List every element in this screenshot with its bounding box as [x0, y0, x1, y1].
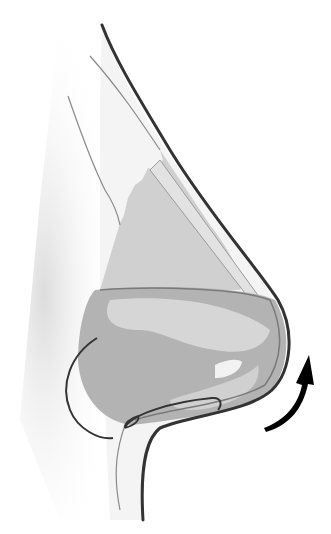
nose-illustration: [0, 0, 331, 534]
nose-diagram: [0, 0, 331, 534]
